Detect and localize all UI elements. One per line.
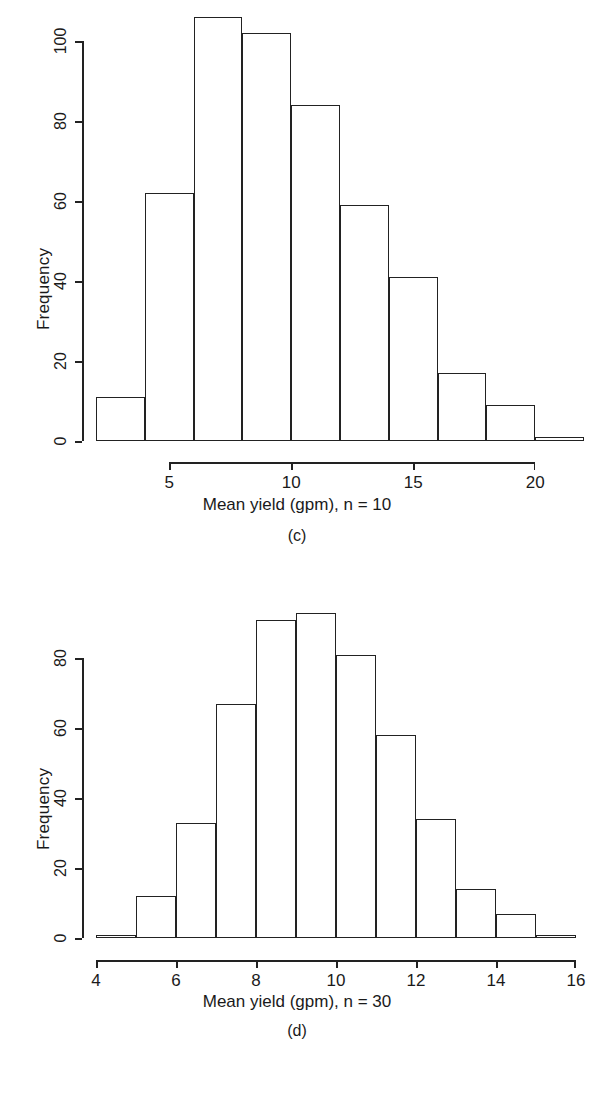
y-axis-tick bbox=[75, 441, 82, 443]
y-axis-tick-label: 0 bbox=[52, 421, 70, 461]
histogram-bar bbox=[376, 735, 416, 938]
panel-caption-d: (d) bbox=[0, 1022, 594, 1040]
histogram-panel-d: 02040608046810121416 Frequency Mean yiel… bbox=[0, 550, 594, 1098]
bar-baseline bbox=[96, 440, 584, 441]
x-axis-tick bbox=[169, 462, 171, 470]
histogram-bar bbox=[145, 193, 194, 441]
histogram-bar bbox=[416, 819, 456, 938]
x-axis-tick-label: 14 bbox=[473, 971, 519, 991]
y-axis-tick bbox=[75, 868, 82, 870]
y-axis-tick bbox=[75, 281, 82, 283]
x-axis-tick bbox=[416, 960, 418, 968]
y-axis-tick-label: 20 bbox=[52, 341, 70, 381]
x-axis-tick-label: 15 bbox=[390, 473, 436, 493]
histogram-bar bbox=[176, 823, 216, 939]
y-axis-tick bbox=[75, 41, 82, 43]
y-axis-tick bbox=[75, 798, 82, 800]
histogram-bar bbox=[216, 704, 256, 939]
x-axis-tick-label: 6 bbox=[153, 971, 199, 991]
x-axis-tick bbox=[291, 462, 293, 470]
y-axis-tick-label: 80 bbox=[52, 638, 70, 678]
x-axis-tick-label: 12 bbox=[393, 971, 439, 991]
histogram-bar bbox=[96, 397, 145, 441]
histogram-bar bbox=[486, 405, 535, 441]
bar-baseline bbox=[96, 937, 576, 938]
x-axis-tick-label: 8 bbox=[233, 971, 279, 991]
histogram-bar bbox=[389, 277, 438, 441]
histogram-bar bbox=[256, 620, 296, 939]
x-axis-tick bbox=[256, 960, 258, 968]
x-axis-tick-label: 10 bbox=[268, 473, 314, 493]
y-axis-tick-label: 0 bbox=[52, 918, 70, 958]
histogram-panel-c: 0204060801005101520 Frequency Mean yield… bbox=[0, 0, 594, 560]
histogram-bar bbox=[291, 105, 340, 441]
x-axis-tick-label: 20 bbox=[512, 473, 558, 493]
x-axis-label-c: Mean yield (gpm), n = 10 bbox=[0, 495, 594, 515]
histogram-bar bbox=[136, 896, 176, 938]
y-axis-tick-label: 80 bbox=[52, 101, 70, 141]
y-axis-label-d: Frequency bbox=[34, 768, 54, 850]
histogram-bar bbox=[496, 914, 536, 939]
y-axis-tick bbox=[75, 361, 82, 363]
y-axis-line bbox=[82, 658, 84, 938]
y-axis-tick bbox=[75, 938, 82, 940]
x-axis-tick-label: 10 bbox=[313, 971, 359, 991]
y-axis-tick-label: 40 bbox=[52, 778, 70, 818]
y-axis-tick-label: 60 bbox=[52, 708, 70, 748]
y-axis-tick-label: 100 bbox=[52, 21, 70, 61]
histogram-bar bbox=[438, 373, 487, 441]
x-axis-tick bbox=[176, 960, 178, 968]
x-axis-tick bbox=[534, 462, 536, 470]
y-axis-tick bbox=[75, 658, 82, 660]
x-axis-tick bbox=[574, 960, 576, 968]
y-axis-tick-label: 40 bbox=[52, 261, 70, 301]
y-axis-tick-label: 20 bbox=[52, 848, 70, 888]
histogram-bar bbox=[456, 889, 496, 938]
x-axis-tick bbox=[496, 960, 498, 968]
histogram-bar bbox=[194, 17, 243, 441]
y-axis-tick bbox=[75, 201, 82, 203]
x-axis-tick-label: 5 bbox=[146, 473, 192, 493]
histogram-bar bbox=[340, 205, 389, 441]
y-axis-line bbox=[82, 41, 84, 441]
histogram-bar bbox=[242, 33, 291, 441]
y-axis-label-c: Frequency bbox=[34, 248, 54, 330]
figure-container: 0204060801005101520 Frequency Mean yield… bbox=[0, 0, 594, 1098]
x-axis-tick bbox=[96, 960, 98, 968]
x-axis-tick-label: 16 bbox=[553, 971, 594, 991]
x-axis-tick-label: 4 bbox=[73, 971, 119, 991]
panel-caption-c: (c) bbox=[0, 527, 594, 545]
y-axis-tick bbox=[75, 121, 82, 123]
x-axis-tick bbox=[336, 960, 338, 968]
histogram-bar bbox=[336, 655, 376, 939]
y-axis-tick bbox=[75, 728, 82, 730]
x-axis-line bbox=[169, 462, 535, 464]
x-axis-tick bbox=[413, 462, 415, 470]
x-axis-label-d: Mean yield (gpm), n = 30 bbox=[0, 992, 594, 1012]
histogram-bar bbox=[296, 613, 336, 939]
y-axis-tick-label: 60 bbox=[52, 181, 70, 221]
